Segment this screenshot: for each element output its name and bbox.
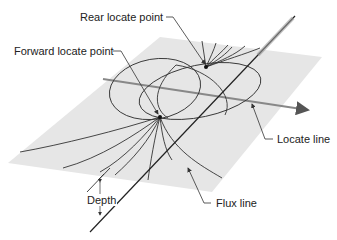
- forward-locate-point-label: Forward locate point: [14, 45, 114, 57]
- rear-locate-point: [204, 65, 208, 69]
- rear-locate-point-label: Rear locate point: [80, 11, 163, 23]
- locate-line-label: Locate line: [277, 133, 330, 145]
- flux-line-label: Flux line: [216, 197, 257, 209]
- forward-locate-point: [158, 115, 162, 119]
- buried-line-shadow: [258, 18, 293, 55]
- diagram-canvas: [0, 0, 337, 240]
- depth-label: Depth: [86, 194, 117, 206]
- ground-plane: [8, 37, 322, 192]
